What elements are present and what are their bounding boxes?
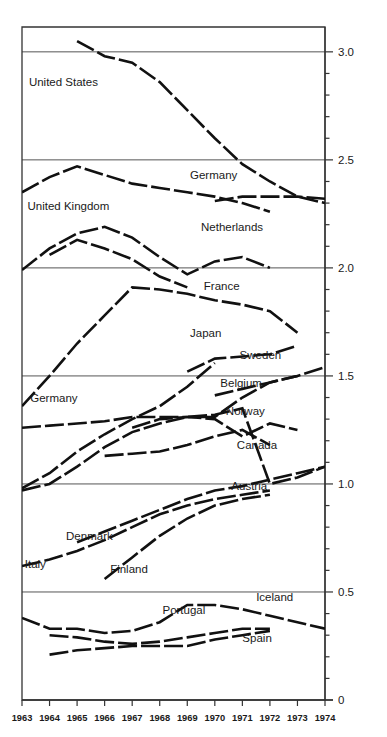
series-label: United States: [29, 76, 98, 88]
y-tick-label: 2.0: [338, 262, 354, 274]
y-tick-label: 1.0: [338, 478, 354, 490]
x-tick-label: 1967: [122, 713, 143, 723]
series-label: Netherlands: [201, 221, 263, 233]
line-chart: 00.51.01.52.02.53.0 19631964196519661967…: [0, 0, 387, 737]
series-label: France: [204, 280, 240, 292]
x-tick-label: 1974: [315, 713, 337, 723]
y-tick-label: 2.5: [338, 154, 354, 166]
y-tick-label: 1.5: [338, 370, 354, 382]
x-tick-label: 1972: [260, 713, 281, 723]
series-label: Finland: [110, 563, 148, 575]
x-tick-label: 1968: [149, 713, 170, 723]
series-label: Iceland: [256, 591, 293, 603]
series-label: Portugal: [162, 604, 205, 616]
series-label: Spain: [242, 632, 271, 644]
series-label: Austria: [231, 480, 267, 492]
x-tick-label: 1969: [177, 713, 198, 723]
series-label: Italy: [25, 558, 46, 570]
x-tick-label: 1973: [287, 713, 308, 723]
x-tick-label: 1963: [12, 713, 33, 723]
x-tick-label: 1964: [39, 713, 61, 723]
x-tick-label: 1965: [67, 713, 88, 723]
series-label: United Kingdom: [28, 200, 110, 212]
series-label: Germany: [190, 169, 238, 181]
series-label: Denmark: [66, 530, 113, 542]
y-tick-label: 0.5: [338, 586, 354, 598]
y-tick-label: 0: [338, 694, 344, 706]
series-label: Canada: [237, 439, 278, 451]
series-label: Sweden: [240, 349, 282, 361]
series-label: Japan: [190, 327, 221, 339]
series-label: Belgium: [220, 377, 262, 389]
chart-root: 00.51.01.52.02.53.0 19631964196519661967…: [0, 0, 387, 737]
series-label: Germany: [30, 392, 78, 404]
y-tick-label: 3.0: [338, 46, 354, 58]
series-label: Norway: [226, 405, 265, 417]
x-tick-label: 1966: [94, 713, 115, 723]
x-tick-label: 1971: [232, 713, 253, 723]
x-tick-label: 1970: [204, 713, 225, 723]
